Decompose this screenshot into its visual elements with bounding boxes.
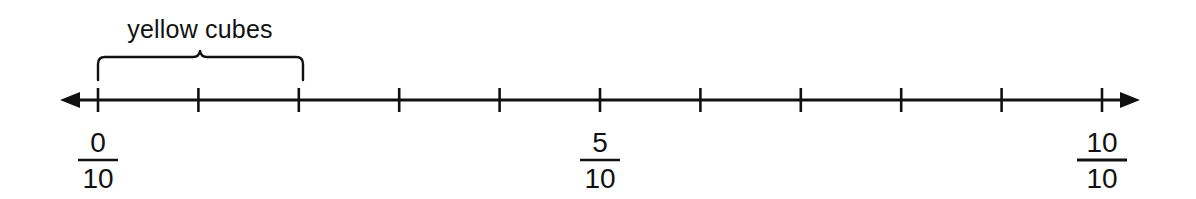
curly-brace-icon	[98, 51, 303, 80]
fraction-denominator: 10	[82, 163, 113, 194]
fraction-denominator: 10	[584, 163, 615, 194]
fraction-label-0-10: 0 10	[78, 127, 118, 194]
brace-label: yellow cubes	[127, 15, 273, 43]
fraction-label-5-10: 5 10	[580, 127, 620, 194]
fraction-numerator: 5	[592, 127, 608, 158]
right-arrowhead-icon	[1120, 92, 1140, 108]
fraction-label-10-10: 10 10	[1077, 127, 1127, 194]
number-line-canvas: yellow cubes 0 10 5 10 10 10	[0, 0, 1196, 199]
fraction-denominator: 10	[1086, 163, 1117, 194]
fraction-numerator: 10	[1086, 127, 1117, 158]
left-arrowhead-icon	[60, 92, 80, 108]
fraction-numerator: 0	[90, 127, 106, 158]
number-line-diagram: yellow cubes 0 10 5 10 10 10	[0, 0, 1196, 199]
brace-group	[98, 51, 303, 80]
